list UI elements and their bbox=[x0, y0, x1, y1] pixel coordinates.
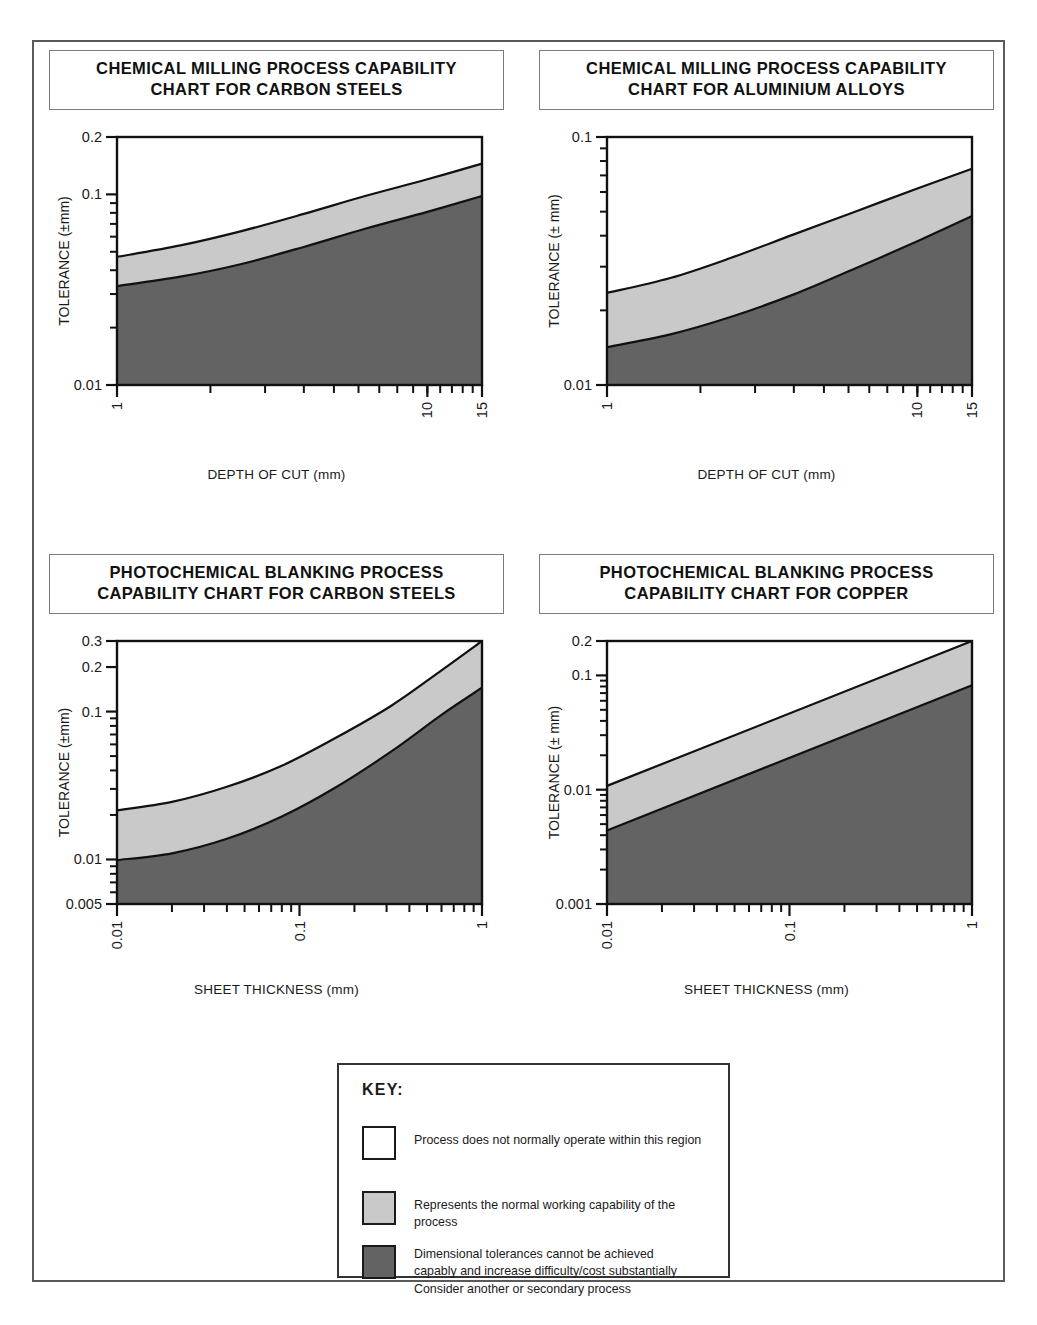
chart-title-2-line-1: CHEMICAL MILLING PROCESS CAPABILITY bbox=[544, 58, 989, 79]
x-tick-label: 10 bbox=[419, 402, 435, 418]
chart-title-1-line-2: CHART FOR CARBON STEELS bbox=[54, 79, 499, 100]
x-tick-label: 15 bbox=[964, 402, 980, 418]
x-tick-label: 0.1 bbox=[292, 921, 308, 941]
key-white-line-1: Process does not normally operate within… bbox=[414, 1132, 701, 1149]
y-tick-label: 0.01 bbox=[74, 851, 102, 867]
key-title: KEY: bbox=[362, 1081, 404, 1099]
light-gray-swatch-icon bbox=[362, 1191, 396, 1225]
dark-gray-swatch-icon bbox=[362, 1245, 396, 1279]
key-darkgray-line-3: Consider another or secondary process bbox=[414, 1281, 677, 1298]
y-tick-label: 0.2 bbox=[82, 659, 102, 675]
chart-title-3-line-2: CAPABILITY CHART FOR CARBON STEELS bbox=[54, 583, 499, 604]
chart-svg-2: 0.10.0111015TOLERANCE (± mm) bbox=[539, 127, 994, 457]
x-axis: 11015 bbox=[599, 385, 980, 418]
key-darkgray-line-2: capably and increase difficulty/cost sub… bbox=[414, 1263, 677, 1280]
y-tick-label: 0.1 bbox=[572, 129, 592, 145]
plot-area-1: 0.20.10.0111015TOLERANCE (±mm) bbox=[49, 127, 521, 457]
key-item-white-text: Process does not normally operate within… bbox=[414, 1126, 701, 1149]
x-axis-label-2: DEPTH OF CUT (mm) bbox=[539, 467, 994, 482]
key-item-white: Process does not normally operate within… bbox=[362, 1126, 701, 1160]
x-tick-label: 0.01 bbox=[109, 921, 125, 949]
y-axis: 0.30.20.10.010.005 bbox=[66, 633, 117, 912]
x-axis-label-3: SHEET THICKNESS (mm) bbox=[49, 982, 504, 997]
y-tick-label: 0.1 bbox=[572, 667, 592, 683]
y-axis-label: TOLERANCE (± mm) bbox=[546, 194, 562, 327]
x-axis-label-1: DEPTH OF CUT (mm) bbox=[49, 467, 504, 482]
x-tick-label: 1 bbox=[474, 921, 490, 929]
y-tick-label: 0.1 bbox=[82, 186, 102, 202]
chart-panel-chemical-milling-carbon-steels: CHEMICAL MILLING PROCESS CAPABILITY CHAR… bbox=[49, 50, 521, 482]
y-tick-label: 0.001 bbox=[556, 896, 592, 912]
chart-title-4: PHOTOCHEMICAL BLANKING PROCESS CAPABILIT… bbox=[539, 554, 994, 614]
x-tick-label: 1 bbox=[109, 402, 125, 410]
key-item-dark-gray-text: Dimensional tolerances cannot be achieve… bbox=[414, 1245, 677, 1298]
chart-title-2: CHEMICAL MILLING PROCESS CAPABILITY CHAR… bbox=[539, 50, 994, 110]
chart-svg-1: 0.20.10.0111015TOLERANCE (±mm) bbox=[49, 127, 504, 457]
y-tick-label: 0.01 bbox=[564, 377, 592, 393]
x-axis: 0.010.11 bbox=[109, 904, 490, 949]
y-axis: 0.20.10.01 bbox=[74, 129, 117, 393]
y-axis: 0.10.01 bbox=[564, 129, 607, 393]
key-item-dark-gray: Dimensional tolerances cannot be achieve… bbox=[362, 1245, 677, 1298]
key-darkgray-line-1: Dimensional tolerances cannot be achieve… bbox=[414, 1246, 677, 1263]
key-lightgray-line-1: Represents the normal working capability… bbox=[414, 1197, 675, 1214]
y-tick-label: 0.005 bbox=[66, 896, 102, 912]
plot-area-4: 0.20.10.010.0010.010.11TOLERANCE (± mm) bbox=[539, 631, 1011, 976]
x-tick-label: 0.1 bbox=[782, 921, 798, 941]
chart-title-3: PHOTOCHEMICAL BLANKING PROCESS CAPABILIT… bbox=[49, 554, 504, 614]
chart-title-1: CHEMICAL MILLING PROCESS CAPABILITY CHAR… bbox=[49, 50, 504, 110]
x-tick-label: 1 bbox=[599, 402, 615, 410]
y-tick-label: 0.01 bbox=[564, 782, 592, 798]
y-tick-label: 0.3 bbox=[82, 633, 102, 649]
y-axis-label: TOLERANCE (± mm) bbox=[546, 706, 562, 839]
y-tick-label: 0.1 bbox=[82, 703, 102, 719]
x-tick-label: 15 bbox=[474, 402, 490, 418]
key-item-light-gray: Represents the normal working capability… bbox=[362, 1191, 675, 1232]
x-axis: 0.010.11 bbox=[599, 904, 980, 949]
x-axis: 11015 bbox=[109, 385, 490, 418]
x-axis-label-4: SHEET THICKNESS (mm) bbox=[539, 982, 994, 997]
chart-panel-photochemical-blanking-copper: PHOTOCHEMICAL BLANKING PROCESS CAPABILIT… bbox=[539, 554, 1011, 997]
chart-svg-4: 0.20.10.010.0010.010.11TOLERANCE (± mm) bbox=[539, 631, 994, 976]
chart-svg-3: 0.30.20.10.010.0050.010.11TOLERANCE (±mm… bbox=[49, 631, 504, 976]
y-axis-label: TOLERANCE (±mm) bbox=[56, 196, 72, 326]
x-tick-label: 1 bbox=[964, 921, 980, 929]
chart-panel-photochemical-blanking-carbon-steels: PHOTOCHEMICAL BLANKING PROCESS CAPABILIT… bbox=[49, 554, 521, 997]
plot-area-2: 0.10.0111015TOLERANCE (± mm) bbox=[539, 127, 1011, 457]
chart-title-4-line-1: PHOTOCHEMICAL BLANKING PROCESS bbox=[544, 562, 989, 583]
chart-title-4-line-2: CAPABILITY CHART FOR COPPER bbox=[544, 583, 989, 604]
key-item-light-gray-text: Represents the normal working capability… bbox=[414, 1191, 675, 1232]
chart-panel-chemical-milling-aluminium-alloys: CHEMICAL MILLING PROCESS CAPABILITY CHAR… bbox=[539, 50, 1011, 482]
chart-title-2-line-2: CHART FOR ALUMINIUM ALLOYS bbox=[544, 79, 989, 100]
y-tick-label: 0.01 bbox=[74, 377, 102, 393]
y-tick-label: 0.2 bbox=[572, 633, 592, 649]
plot-area-3: 0.30.20.10.010.0050.010.11TOLERANCE (±mm… bbox=[49, 631, 521, 976]
white-swatch-icon bbox=[362, 1126, 396, 1160]
y-axis: 0.20.10.010.001 bbox=[556, 633, 607, 912]
key-lightgray-line-2: process bbox=[414, 1214, 675, 1231]
y-axis-label: TOLERANCE (±mm) bbox=[56, 708, 72, 838]
chart-title-3-line-1: PHOTOCHEMICAL BLANKING PROCESS bbox=[54, 562, 499, 583]
x-tick-label: 0.01 bbox=[599, 921, 615, 949]
x-tick-label: 10 bbox=[909, 402, 925, 418]
y-tick-label: 0.2 bbox=[82, 129, 102, 145]
chart-title-1-line-1: CHEMICAL MILLING PROCESS CAPABILITY bbox=[54, 58, 499, 79]
key-legend-box: KEY: Process does not normally operate w… bbox=[337, 1063, 730, 1278]
